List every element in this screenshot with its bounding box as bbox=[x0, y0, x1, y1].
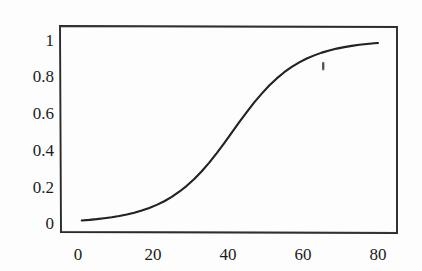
y-tick-label: 0.8 bbox=[33, 67, 54, 86]
y-tick-label: 0 bbox=[46, 214, 55, 233]
y-tick-label: 1 bbox=[46, 31, 55, 50]
axes-box bbox=[60, 26, 397, 233]
y-tick-label: 0.6 bbox=[33, 104, 54, 123]
figure-panel: 1 0.8 0.6 0.4 0.2 0 0 20 40 60 80 bbox=[0, 0, 422, 271]
sigmoid-curve-texture bbox=[82, 43, 378, 221]
x-tick-label: 20 bbox=[145, 245, 162, 264]
x-tick-label: 60 bbox=[295, 245, 312, 264]
x-tick-label: 40 bbox=[220, 245, 237, 264]
y-tick-label: 0.4 bbox=[33, 141, 55, 160]
sigmoid-plot-svg: 1 0.8 0.6 0.4 0.2 0 0 20 40 60 80 bbox=[0, 0, 422, 271]
data-series-sigmoid bbox=[82, 43, 378, 221]
x-tick-label: 0 bbox=[74, 245, 83, 264]
y-axis-tick-labels: 1 0.8 0.6 0.4 0.2 0 bbox=[33, 31, 55, 233]
scan-speck-icon bbox=[322, 62, 324, 70]
x-axis-tick-labels: 0 20 40 60 80 bbox=[74, 245, 387, 264]
y-tick-label: 0.2 bbox=[33, 178, 54, 197]
plot-frame bbox=[60, 26, 397, 233]
x-tick-label: 80 bbox=[370, 245, 387, 264]
sigmoid-curve bbox=[82, 43, 378, 221]
